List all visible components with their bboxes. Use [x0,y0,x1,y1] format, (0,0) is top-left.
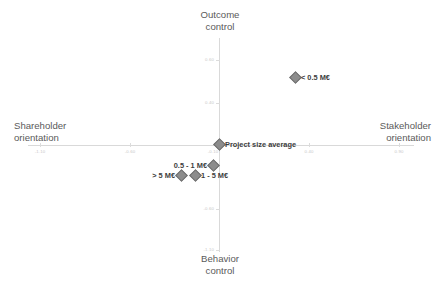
axis-title-shareholder-orientation: Shareholder orientation [14,120,66,143]
diamond-marker-icon [175,169,188,182]
axis-title-line: Stakeholder [380,120,431,132]
x-tick-label: -0.10 [208,149,219,155]
x-tick-label: 0.90 [395,149,404,155]
axis-title-line: orientation [380,132,431,144]
axis-title-behavior-control: Behavior control [201,253,239,276]
axis-title-line: control [201,21,240,33]
data-point-label: 0.5 - 1 M€ [174,161,207,170]
x-tick-label: -0.60 [125,149,136,155]
y-tick-label: 0.60 [205,57,214,63]
axis-title-line: orientation [14,132,66,144]
y-tick-mark [216,250,220,251]
y-tick-label: -0.60 [203,206,214,212]
y-tick-mark [216,209,220,210]
axis-title-line: Behavior [201,253,239,265]
data-point-label: Project size average [225,140,296,149]
x-tick-mark [399,143,400,147]
y-tick-label: 0.40 [205,100,214,106]
axis-title-line: control [201,265,239,277]
x-tick-label: -1.10 [35,149,46,155]
axis-title-stakeholder-orientation: Stakeholder orientation [380,120,431,143]
axis-title-line: Outcome [201,9,240,21]
y-tick-mark [216,103,220,104]
scatter-chart: -1.10 -0.60 -0.10 0.40 0.90 0.60 0.40 -0… [0,0,441,291]
axis-title-line: Shareholder [14,120,66,132]
x-tick-mark [130,143,131,147]
data-point-label: 1 - 5 M€ [201,171,228,180]
x-tick-label: 0.40 [305,149,314,155]
data-point-label: > 5 M€ [152,171,175,180]
y-tick-mark [216,60,220,61]
x-tick-mark [40,143,41,147]
data-point-label: < 0.5 M€ [301,73,330,82]
axis-title-outcome-control: Outcome control [201,9,240,32]
x-tick-mark [309,143,310,147]
